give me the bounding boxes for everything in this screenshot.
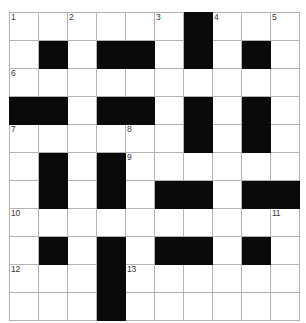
letter-cell[interactable]: 1 [10,13,39,41]
letter-cell[interactable] [213,181,242,209]
letter-cell[interactable] [39,125,68,153]
letter-cell[interactable] [213,265,242,293]
letter-cell[interactable] [242,69,271,97]
letter-cell[interactable] [213,237,242,265]
crossword-row: 1213 [10,265,300,293]
block-cell [39,181,68,209]
letter-cell[interactable] [68,97,97,125]
letter-cell[interactable] [10,181,39,209]
letter-cell[interactable] [68,125,97,153]
letter-cell[interactable] [10,153,39,181]
clue-number: 5 [272,12,276,22]
letter-cell[interactable] [39,209,68,237]
letter-cell[interactable] [68,265,97,293]
letter-cell[interactable] [126,181,155,209]
crossword-row [10,237,300,265]
letter-cell[interactable] [68,41,97,69]
letter-cell[interactable]: 7 [10,125,39,153]
letter-cell[interactable]: 3 [155,13,184,41]
letter-cell[interactable] [97,209,126,237]
letter-cell[interactable] [155,97,184,125]
letter-cell[interactable] [10,41,39,69]
block-cell [242,41,271,69]
letter-cell[interactable] [155,265,184,293]
letter-cell[interactable] [39,13,68,41]
block-cell [242,125,271,153]
letter-cell[interactable] [271,153,300,181]
block-cell [97,265,126,293]
crossword-grid[interactable]: 12345678910111213 [9,12,300,321]
letter-cell[interactable] [155,41,184,69]
letter-cell[interactable] [242,13,271,41]
letter-cell[interactable]: 6 [10,69,39,97]
letter-cell[interactable] [126,13,155,41]
letter-cell[interactable] [68,293,97,321]
letter-cell[interactable] [39,293,68,321]
block-cell [97,153,126,181]
crossword-row: 6 [10,69,300,97]
letter-cell[interactable] [271,293,300,321]
letter-cell[interactable] [126,237,155,265]
letter-cell[interactable]: 8 [126,125,155,153]
letter-cell[interactable] [39,265,68,293]
letter-cell[interactable] [184,209,213,237]
letter-cell[interactable] [126,209,155,237]
letter-cell[interactable] [271,125,300,153]
letter-cell[interactable]: 9 [126,153,155,181]
letter-cell[interactable] [271,97,300,125]
letter-cell[interactable] [213,293,242,321]
letter-cell[interactable] [213,69,242,97]
letter-cell[interactable] [213,97,242,125]
letter-cell[interactable]: 12 [10,265,39,293]
letter-cell[interactable] [213,125,242,153]
letter-cell[interactable]: 10 [10,209,39,237]
letter-cell[interactable]: 5 [271,13,300,41]
letter-cell[interactable] [184,293,213,321]
letter-cell[interactable] [242,209,271,237]
letter-cell[interactable] [97,13,126,41]
letter-cell[interactable] [155,125,184,153]
letter-cell[interactable] [10,293,39,321]
block-cell [242,237,271,265]
block-cell [242,97,271,125]
crossword-row [10,97,300,125]
letter-cell[interactable]: 13 [126,265,155,293]
letter-cell[interactable] [242,153,271,181]
crossword-row: 9 [10,153,300,181]
letter-cell[interactable] [155,293,184,321]
letter-cell[interactable] [155,153,184,181]
letter-cell[interactable] [126,69,155,97]
letter-cell[interactable] [155,209,184,237]
letter-cell[interactable] [97,69,126,97]
block-cell [155,181,184,209]
letter-cell[interactable] [68,181,97,209]
letter-cell[interactable] [213,153,242,181]
crossword-row: 78 [10,125,300,153]
letter-cell[interactable] [242,265,271,293]
letter-cell[interactable] [271,237,300,265]
letter-cell[interactable] [271,265,300,293]
letter-cell[interactable] [68,153,97,181]
block-cell [39,237,68,265]
letter-cell[interactable] [155,69,184,97]
letter-cell[interactable] [184,265,213,293]
letter-cell[interactable] [39,69,68,97]
letter-cell[interactable] [10,237,39,265]
letter-cell[interactable] [184,69,213,97]
letter-cell[interactable] [126,293,155,321]
block-cell [126,41,155,69]
letter-cell[interactable] [213,41,242,69]
letter-cell[interactable]: 2 [68,13,97,41]
letter-cell[interactable] [68,69,97,97]
letter-cell[interactable] [97,125,126,153]
letter-cell[interactable] [68,209,97,237]
letter-cell[interactable] [68,237,97,265]
letter-cell[interactable] [242,293,271,321]
letter-cell[interactable]: 4 [213,13,242,41]
letter-cell[interactable] [213,209,242,237]
letter-cell[interactable] [271,41,300,69]
letter-cell[interactable] [184,153,213,181]
letter-cell[interactable] [271,69,300,97]
block-cell [184,97,213,125]
letter-cell[interactable]: 11 [271,209,300,237]
